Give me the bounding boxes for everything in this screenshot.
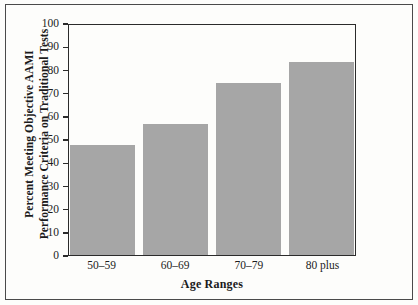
bar-50-59: [70, 145, 135, 255]
bar-60-69: [143, 124, 208, 255]
bar-70-79: [216, 83, 281, 256]
y-axis-tick-label: 100: [42, 18, 59, 30]
y-axis-tick-label: 10: [48, 227, 60, 239]
y-axis-tick-label: 90: [48, 41, 60, 53]
y-axis-tick-label: 20: [48, 204, 60, 216]
y-axis-tick-label: 60: [48, 111, 60, 123]
plot-area: [68, 24, 356, 256]
x-axis-tick-label: 50–59: [69, 259, 134, 271]
y-axis-tick-label: 70: [48, 88, 60, 100]
bar-group: [69, 25, 355, 255]
y-axis-tick-group: 1009080706050403020100: [28, 24, 68, 256]
x-axis-tick-group: 50–5960–6970–7980 plus: [68, 259, 356, 271]
y-axis-tick-label: 0: [53, 250, 59, 262]
x-axis-tick-label: 60–69: [143, 259, 208, 271]
y-axis-tick-label: 30: [48, 181, 60, 193]
y-axis-tick-label: 40: [48, 157, 60, 169]
x-axis-tick-label: 80 plus: [290, 259, 355, 271]
x-axis-tick-label: 70–79: [216, 259, 281, 271]
y-axis-tick-label: 50: [48, 134, 60, 146]
x-axis-title: Age Ranges: [68, 277, 356, 292]
bar-chart-figure: Percent Meeting Objective AAMI Performan…: [0, 0, 418, 305]
y-axis-tick-label: 80: [48, 65, 60, 77]
bar-80-plus: [289, 62, 354, 255]
